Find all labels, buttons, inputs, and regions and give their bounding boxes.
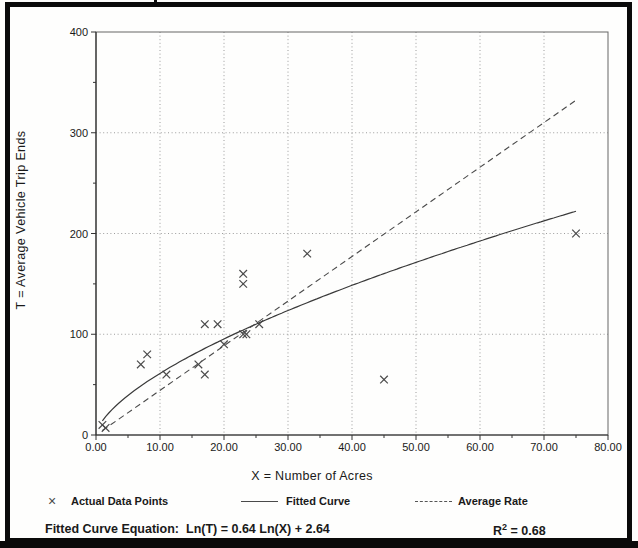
y-tick-label: 200 (50, 228, 88, 240)
legend-label-fitted-curve: Fitted Curve (286, 495, 350, 507)
equation-row: Fitted Curve Equation: Ln(T) = 0.64 Ln(X… (0, 522, 638, 540)
x-tick-label: 40.00 (330, 441, 374, 453)
x-tick-label: 30.00 (266, 441, 310, 453)
equation-label: Fitted Curve Equation: (45, 522, 179, 536)
y-axis-title: T = Average Vehicle Trip Ends (14, 105, 30, 335)
fitted-curve-line (102, 211, 576, 421)
legend-label-average-rate: Average Rate (458, 495, 528, 507)
x-axis-title: X = Number of Acres (232, 469, 392, 483)
x-tick-label: 0.00 (74, 441, 118, 453)
x-tick-label: 70.00 (522, 441, 566, 453)
equation-text: Ln(T) = 0.64 Ln(X) + 2.64 (186, 522, 330, 536)
x-tick-label: 60.00 (458, 441, 502, 453)
chart-page: T = Average Vehicle Trip Ends X = Number… (0, 0, 638, 548)
average-rate-line (102, 100, 576, 430)
x-tick-label: 80.00 (586, 441, 630, 453)
y-axis-tick-labels: 0100200300400 (50, 32, 88, 435)
x-tick-label: 20.00 (202, 441, 246, 453)
x-axis-tick-labels: 0.0010.0020.0030.0040.0050.0060.0070.008… (96, 441, 608, 455)
y-tick-label: 300 (50, 127, 88, 139)
solid-line-icon (241, 501, 278, 502)
r-squared-value: R2 = 0.68 (493, 522, 546, 538)
y-tick-label: 100 (50, 328, 88, 340)
legend: × Actual Data Points Fitted Curve Averag… (0, 492, 638, 510)
bottom-border-bar (0, 541, 638, 548)
y-tick-label: 400 (50, 26, 88, 38)
x-marker-icon: × (48, 493, 56, 509)
x-tick-label: 10.00 (138, 441, 182, 453)
x-tick-label: 50.00 (394, 441, 438, 453)
dashed-line-icon (415, 501, 452, 502)
legend-label-actual-data-points: Actual Data Points (71, 495, 168, 507)
plot-area (96, 32, 608, 435)
y-tick-label: 0 (50, 429, 88, 441)
